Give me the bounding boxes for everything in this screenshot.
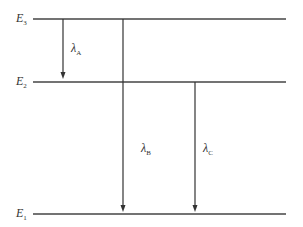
level-subscript: 1: [23, 214, 27, 222]
arrowhead-a: [61, 72, 66, 79]
level-subscript: 3: [23, 19, 27, 27]
level-label-e2: E2: [16, 75, 27, 90]
transition-label-b: λB: [141, 142, 151, 157]
arrowhead-b: [121, 205, 126, 212]
transition-label-c: λC: [203, 142, 213, 157]
wavelength-subscript: C: [208, 149, 213, 157]
transition-label-a: λA: [71, 42, 81, 57]
wavelength-subscript: A: [76, 49, 81, 57]
wavelength-subscript: B: [146, 149, 151, 157]
level-subscript: 2: [23, 82, 27, 90]
level-label-e3: E3: [16, 12, 27, 27]
energy-level-diagram: [0, 0, 303, 227]
level-label-e1: E1: [16, 207, 27, 222]
arrowhead-c: [193, 205, 198, 212]
